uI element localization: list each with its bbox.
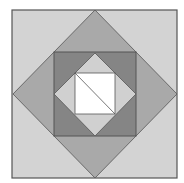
- nested-squares-diagram: [0, 0, 184, 183]
